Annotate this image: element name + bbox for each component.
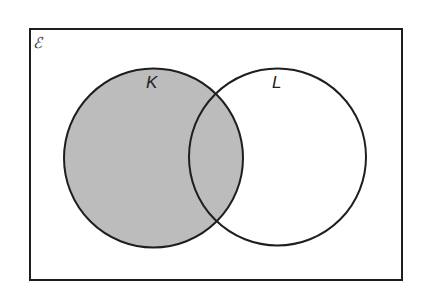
set-l-label: L — [272, 73, 281, 92]
set-k-label: K — [146, 73, 158, 92]
universal-set-label: ℰ — [33, 34, 44, 52]
venn-diagram: ℰ K L — [0, 0, 423, 293]
